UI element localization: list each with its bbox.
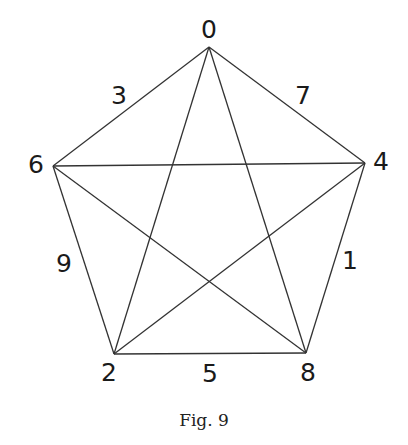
vertex-label-4: 4 [373, 147, 389, 176]
vertex-label-2: 2 [101, 358, 117, 387]
edge-label: 1 [342, 246, 358, 275]
edge-0-4 [209, 47, 365, 163]
edge-0-8 [209, 47, 306, 353]
edge-label: 9 [56, 249, 72, 278]
graph-edges [53, 47, 365, 354]
vertex-labels: 04826 [28, 15, 389, 387]
edge-labels: 71593 [56, 81, 358, 388]
edge-0-2 [114, 47, 209, 354]
edge-8-6 [53, 166, 306, 353]
vertex-label-6: 6 [28, 150, 44, 179]
graph-figure: 04826 71593 [0, 0, 408, 445]
edge-label: 5 [202, 359, 218, 388]
edge-4-2 [114, 163, 365, 354]
vertex-label-0: 0 [201, 15, 217, 44]
edge-8-2 [114, 353, 306, 354]
vertex-label-8: 8 [300, 358, 316, 387]
edge-6-0 [53, 47, 209, 166]
edge-label: 3 [111, 81, 127, 110]
edge-label: 7 [295, 81, 311, 110]
figure-caption: Fig. 9 [0, 410, 408, 430]
edge-4-6 [53, 163, 365, 166]
